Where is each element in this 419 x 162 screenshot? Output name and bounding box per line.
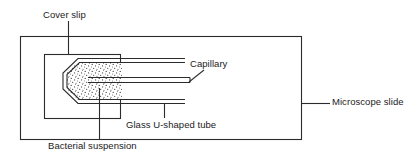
label-bacterial-suspension: Bacterial suspension [48, 140, 137, 151]
diagram-canvas [0, 0, 419, 162]
label-cover-slip: Cover slip [43, 9, 86, 20]
label-glass-u-shaped-tube: Glass U-shaped tube [126, 119, 216, 130]
label-capillary: Capillary [190, 58, 227, 69]
capillary-leader-line [189, 70, 204, 82]
diagram-figure: Cover slip Capillary Microscope slide Gl… [0, 0, 419, 162]
label-microscope-slide: Microscope slide [332, 96, 404, 107]
